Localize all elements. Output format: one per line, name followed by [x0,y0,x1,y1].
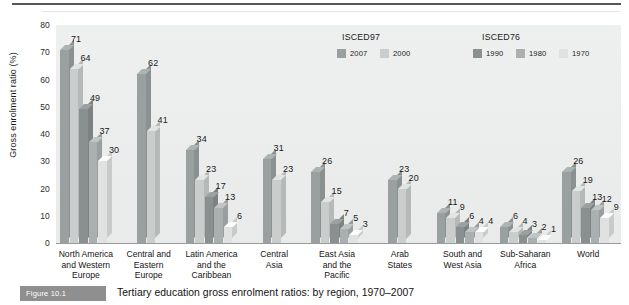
legend-swatch [337,49,346,58]
bar-front [311,172,320,243]
bar [214,208,223,243]
bar-side [107,151,112,238]
x-axis-baseline [56,243,621,244]
caption-badge: Figure 10.1 [20,286,106,301]
legend-item[interactable]: 1980 [516,49,546,58]
bar-front [186,150,195,243]
bar-front [263,159,272,243]
bar-value-label: 1 [551,224,556,234]
bar-value-label: 15 [332,186,342,196]
bar [60,50,69,243]
bar-value-label: 20 [409,173,419,183]
bar-front [79,109,88,243]
bar [89,142,98,243]
bar-value-label: 7 [344,208,349,218]
legend-swatch [380,49,389,58]
bar-value-label: 26 [322,156,332,166]
bar-value-label: 49 [90,93,100,103]
bar-front [98,161,107,243]
bar [340,229,349,243]
bar [562,172,571,243]
bar-value-label: 62 [148,58,158,68]
bar-value-label: 3 [532,219,537,229]
bar-value-label: 37 [99,126,109,136]
bar [70,69,79,243]
bar-value-label: 3 [363,219,368,229]
y-axis-title: Gross enrolment ratio (%) [8,20,18,190]
bar [437,213,446,243]
bar-value-label: 9 [614,202,619,212]
bar-value-label: 23 [283,164,293,174]
bar-value-label: 26 [573,156,583,166]
bar-value-label: 64 [80,53,90,63]
bar-value-label: 13 [225,192,235,202]
bar-front [519,235,528,243]
bar [330,224,339,243]
bar-front [349,235,358,243]
legend-item[interactable]: 2007 [337,49,367,58]
legend-swatch [559,49,568,58]
bar-front [205,197,214,243]
bar-front [195,180,204,243]
bar-value-label: 5 [353,213,358,223]
bar-front [398,189,407,244]
bar-front [321,202,330,243]
bar-front [272,180,281,243]
bar-front [214,208,223,243]
y-axis-tick: 10 [40,211,50,221]
caption-badge-label: Figure 10.1 [20,286,106,298]
y-axis-tick: 20 [40,184,50,194]
y-axis-tick: 50 [40,102,50,112]
bar-value-label: 4 [479,216,484,226]
bar [195,180,204,243]
bar [186,150,195,243]
bar-value-label: 12 [602,194,612,204]
bar-front [500,227,509,243]
bar-front [330,224,339,243]
bar-front [89,142,98,243]
bar-front [147,131,156,243]
bar [581,208,590,243]
bar [147,131,156,243]
bar [272,180,281,243]
bar-value-label: 6 [237,211,242,221]
legend-item[interactable]: 1990 [473,49,503,58]
bar [519,235,528,243]
bar-value-label: 17 [215,181,225,191]
legend-label: 2000 [393,49,410,58]
bar-side [281,170,286,238]
bar [321,202,330,243]
legend-item[interactable]: 2000 [380,49,410,58]
bar-value-label: 6 [513,211,518,221]
x-axis-label: World [546,249,629,260]
legend-label: 1990 [486,49,503,58]
legend-swatch [516,49,525,58]
bar-front [60,50,69,243]
bar-front [581,208,590,243]
bar-front [137,74,146,243]
y-axis-tick: 30 [40,156,50,166]
bar-value-label: 9 [460,202,465,212]
legend-item[interactable]: 1970 [559,49,589,58]
legend-label: 1970 [572,49,589,58]
bar [509,232,518,243]
bar-value-label: 30 [109,145,119,155]
bar [137,74,146,243]
bar [388,180,397,243]
bar-value-label: 6 [469,211,474,221]
bar [500,227,509,243]
bar-value-label: 4 [522,216,527,226]
bar-value-label: 11 [448,197,458,207]
bar [311,172,320,243]
bar-top [538,235,552,240]
legend-group-title: ISCED76 [482,32,520,42]
bar-value-label: 71 [71,34,81,44]
bar [456,227,465,243]
bar-front [388,180,397,243]
bar [98,161,107,243]
bar [263,159,272,243]
bar [205,197,214,243]
figure-container: 7164493730624134231713631232615753232011… [0,0,629,305]
y-axis-tick: 60 [40,75,50,85]
bar [224,227,233,243]
